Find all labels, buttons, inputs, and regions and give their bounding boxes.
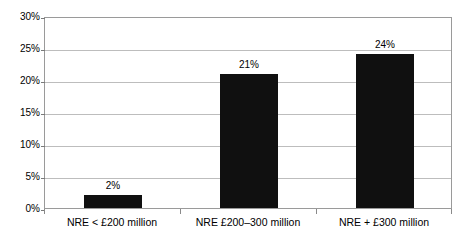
bar-slot: 21%: [181, 18, 317, 208]
y-axis-tick-label: 10%: [0, 140, 40, 150]
y-axis: 0%5%10%15%20%25%30%: [0, 0, 40, 239]
bar-value-label: 24%: [375, 40, 395, 50]
y-axis-tick-label: 30%: [0, 12, 40, 22]
bar: [356, 54, 414, 208]
x-axis-tick-mark: [44, 209, 45, 214]
y-axis-tick-label: 20%: [0, 76, 40, 86]
bar-chart: 0%5%10%15%20%25%30% 2%21%24% NRE < £200 …: [0, 0, 466, 239]
x-axis-tick-mark: [316, 209, 317, 214]
bar: [84, 195, 142, 208]
bar: [220, 74, 278, 208]
x-axis-tick-mark: [180, 209, 181, 214]
y-axis-tick-label: 15%: [0, 108, 40, 118]
bar-slot: 2%: [45, 18, 181, 208]
x-axis-category-label: NRE £200–300 million: [180, 216, 316, 229]
bar-value-label: 21%: [239, 60, 259, 70]
x-axis-tick-mark: [451, 209, 452, 214]
plot-area: 2%21%24%: [44, 17, 452, 209]
bars: 2%21%24%: [45, 18, 451, 208]
bar-value-label: 2%: [106, 181, 120, 191]
bar-slot: 24%: [317, 18, 453, 208]
x-axis-labels: NRE < £200 millionNRE £200–300 millionNR…: [44, 216, 452, 236]
x-axis-ticks: [44, 209, 452, 215]
y-axis-tick-label: 5%: [0, 172, 40, 182]
y-axis-tick-label: 0%: [0, 204, 40, 214]
x-axis-category-label: NRE + £300 million: [316, 216, 452, 229]
x-axis-category-label: NRE < £200 million: [44, 216, 180, 229]
y-axis-tick-label: 25%: [0, 44, 40, 54]
